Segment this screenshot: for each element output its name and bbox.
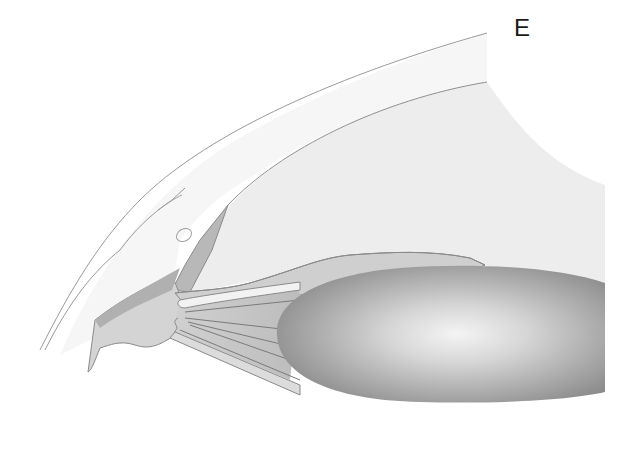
panel-label: E (514, 14, 530, 42)
eye-illustration (0, 0, 635, 456)
right-margin (605, 0, 635, 456)
eye-diagram: E (0, 0, 635, 456)
lens (277, 266, 605, 403)
